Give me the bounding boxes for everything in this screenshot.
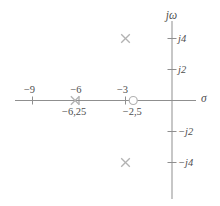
- y-axis-label: jω: [164, 9, 177, 22]
- y-tick-label: j4: [176, 33, 187, 44]
- x-axis-label: σ: [201, 92, 208, 104]
- pole-marker: [121, 158, 130, 167]
- y-tick-label: −j2: [178, 126, 194, 137]
- pole-zero-plot: −9−6−3j4j2−j2−j4−6,25−2,5 jω σ: [0, 0, 220, 206]
- plot-canvas: −9−6−3j4j2−j2−j4−6,25−2,5 jω σ: [0, 0, 220, 206]
- marker-value-label: −2,5: [123, 106, 142, 117]
- y-tick-label: j2: [176, 64, 187, 75]
- marker-value-label: −6,25: [62, 106, 86, 117]
- zero-marker: [129, 97, 137, 105]
- x-tick-label: −3: [117, 84, 128, 95]
- x-tick-label: −9: [24, 84, 35, 95]
- y-tick-label: −j4: [178, 157, 194, 168]
- x-tick-label: −6: [70, 84, 81, 95]
- pole-marker: [121, 34, 130, 43]
